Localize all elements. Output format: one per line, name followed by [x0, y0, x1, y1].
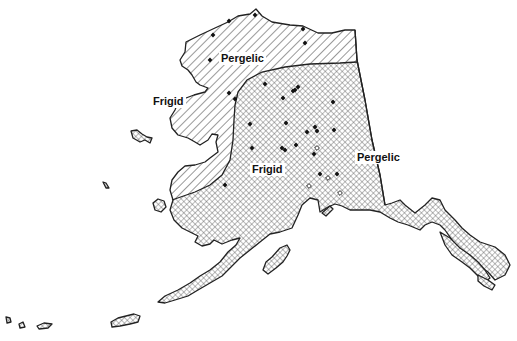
label-interior-frigid: Frigid	[250, 163, 285, 176]
small-bering-island	[103, 182, 109, 188]
aleutian-island-3	[19, 322, 25, 328]
aleutian-island-4	[6, 317, 11, 323]
st-lawrence-island	[131, 130, 152, 143]
label-east-pergelic: Pergelic	[355, 151, 402, 164]
aleutian-island-1	[111, 314, 140, 327]
kodiak-island	[263, 245, 290, 274]
label-west-frigid: Frigid	[151, 95, 186, 108]
label-north-pergelic: Pergelic	[219, 52, 266, 65]
aleutian-island-2	[37, 323, 52, 329]
nunivak-island	[153, 199, 166, 212]
